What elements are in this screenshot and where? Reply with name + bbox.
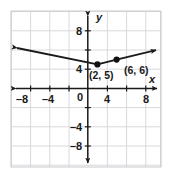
y-tick-label-pos8: 8 xyxy=(76,26,82,37)
x-tick-label-pos4: 4 xyxy=(104,94,110,105)
x-tick-label-neg4: –4 xyxy=(42,94,54,105)
x-axis-label: x xyxy=(149,74,155,85)
y-tick-label-pos4: 4 xyxy=(76,64,82,75)
coordinate-plane-figure: –8 –4 0 4 8 8 4 –4 –8 y x (2, 5) (6, 6) xyxy=(0,0,173,178)
x-tick-label-pos8: 8 xyxy=(143,94,149,105)
data-point-2-5 xyxy=(94,61,100,67)
data-point-6-6 xyxy=(114,57,120,63)
graph-canvas xyxy=(0,0,173,178)
y-tick-label-neg8: –8 xyxy=(70,141,82,152)
point-label-2-5: (2, 5) xyxy=(89,70,114,81)
x-tick-label-neg8: –8 xyxy=(16,94,28,105)
point-label-6-6: (6, 6) xyxy=(124,65,149,76)
origin-label: 0 xyxy=(77,92,83,103)
y-tick-label-neg4: –4 xyxy=(70,122,82,133)
y-axis-label: y xyxy=(96,12,102,23)
